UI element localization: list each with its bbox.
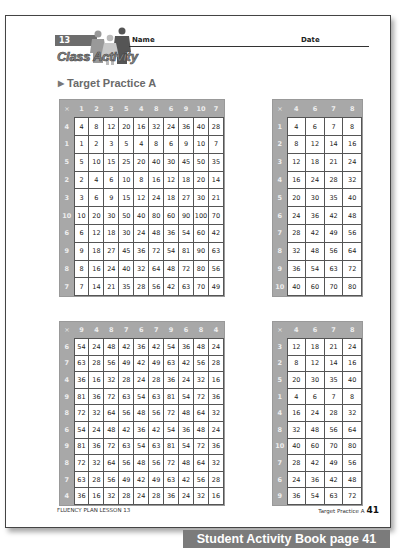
product-cell: 5 [119,136,134,154]
table-row: 832485664 [273,242,362,260]
product-cell: 24 [287,471,306,488]
product-cell: 18 [306,339,325,356]
table-row: 654244842364254364824 [60,339,224,356]
column-factor: 7 [324,322,343,339]
product-cell: 16 [89,260,104,278]
product-cell: 42 [324,471,343,488]
product-cell: 16 [208,488,223,505]
product-cell: 36 [306,207,325,225]
product-cell: 70 [208,207,223,225]
product-cell: 6 [74,225,89,243]
row-factor: 4 [60,118,74,136]
product-cell: 32 [134,260,149,278]
product-cell: 16 [89,372,104,389]
product-cell: 42 [324,207,343,225]
product-cell: 36 [179,118,194,136]
product-cell: 48 [343,207,362,225]
product-cell: 80 [149,207,164,225]
row-factor: 1 [60,136,74,154]
product-cell: 24 [104,260,119,278]
product-cell: 20 [134,153,149,171]
table-row: 728424956 [273,225,362,243]
product-cell: 54 [306,260,325,278]
product-cell: 16 [208,372,223,389]
product-cell: 24 [89,422,104,439]
column-factor: 8 [104,322,119,339]
product-cell: 70 [324,438,343,455]
row-factor: 6 [273,471,287,488]
column-factor: 10 [194,100,209,118]
product-cell: 14 [324,136,343,154]
multiplication-table-2: ×467814678281214163121821244162428325203… [273,100,362,296]
product-cell: 72 [149,242,164,260]
product-cell: 42 [134,355,149,372]
product-cell: 12 [89,225,104,243]
product-cell: 12 [287,153,306,171]
product-cell: 24 [134,372,149,389]
product-cell: 28 [89,471,104,488]
product-cell: 21 [104,278,119,296]
column-factor: 8 [149,100,164,118]
product-cell: 7 [74,278,89,296]
product-cell: 42 [149,339,164,356]
column-factor: 7 [149,322,164,339]
product-cell: 56 [194,355,209,372]
product-cell: 18 [89,242,104,260]
times-corner-icon: × [273,322,287,339]
product-cell: 64 [104,455,119,472]
product-cell: 14 [324,355,343,372]
product-cell: 6 [306,388,325,405]
product-cell: 27 [179,189,194,207]
product-cell: 63 [164,471,179,488]
product-cell: 54 [179,388,194,405]
product-cell: 54 [179,225,194,243]
table-row: 28121416 [273,355,362,372]
product-cell: 12 [306,136,325,154]
product-cell: 81 [179,242,194,260]
product-cell: 72 [179,260,194,278]
product-cell: 27 [104,242,119,260]
product-cell: 36 [134,339,149,356]
product-cell: 28 [287,225,306,243]
product-cell: 32 [287,242,306,260]
product-cell: 15 [104,153,119,171]
table-row: 936546372 [273,488,362,505]
table-row: 763285649424963425628 [60,471,224,488]
row-factor: 4 [273,405,287,422]
product-cell: 12 [287,339,306,356]
table-row: 654244842364254364824 [60,422,224,439]
row-factor: 9 [60,242,74,260]
product-cell: 20 [287,372,306,389]
product-cell: 9 [179,136,194,154]
product-cell: 36 [74,372,89,389]
times-corner-icon: × [273,100,287,118]
product-cell: 10 [119,171,134,189]
product-cell: 42 [164,278,179,296]
product-cell: 12 [104,118,119,136]
product-cell: 32 [89,405,104,422]
times-corner-icon: × [60,322,74,339]
product-cell: 6 [164,136,179,154]
row-factor: 6 [60,339,74,356]
row-factor: 10 [273,278,287,296]
triangle-arrow-icon: ▶ [58,79,64,88]
row-factor: 7 [273,225,287,243]
product-cell: 36 [89,388,104,405]
column-factor: 3 [104,100,119,118]
table-row: 336915122418273021 [60,189,224,207]
multiplication-table-1: ×123548691074481220163224364028112354869… [60,100,224,296]
footer-page-info: Target Practice A41 [318,505,379,515]
product-cell: 63 [74,355,89,372]
product-cell: 72 [74,405,89,422]
product-cell: 24 [306,405,325,422]
product-cell: 24 [164,118,179,136]
table-row: 14678 [273,388,362,405]
column-factor: 4 [89,322,104,339]
product-cell: 63 [119,388,134,405]
product-cell: 24 [306,171,325,189]
product-cell: 64 [343,422,362,439]
product-cell: 48 [164,260,179,278]
product-cell: 18 [179,171,194,189]
product-cell: 18 [306,153,325,171]
product-cell: 54 [74,422,89,439]
